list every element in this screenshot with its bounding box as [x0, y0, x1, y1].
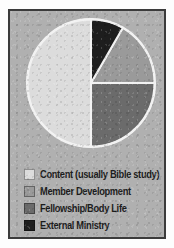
legend-swatch-fellowship-body-life [24, 203, 35, 214]
legend-label-member-development: Member Development [40, 186, 131, 197]
legend-item-member-development: Member Development [24, 183, 156, 199]
legend-item-external-ministry: External Ministry [24, 217, 156, 233]
chart-plate: Content (usually Bible study) Member Dev… [8, 9, 166, 239]
legend-label-fellowship-body-life: Fellowship/Body Life [40, 203, 127, 214]
figure-canvas: Content (usually Bible study) Member Dev… [0, 0, 174, 248]
legend-item-fellowship-body-life: Fellowship/Body Life [24, 200, 156, 216]
pie-chart [24, 16, 158, 150]
pie-chart-svg [24, 16, 158, 150]
legend-label-external-ministry: External Ministry [40, 220, 109, 231]
chart-legend: Content (usually Bible study) Member Dev… [24, 166, 156, 234]
pie-slice [27, 19, 91, 147]
legend-swatch-content [24, 169, 35, 180]
legend-label-content: Content (usually Bible study) [40, 169, 159, 180]
legend-swatch-external-ministry [24, 220, 35, 231]
legend-item-content: Content (usually Bible study) [24, 166, 156, 182]
legend-swatch-member-development [24, 186, 35, 197]
